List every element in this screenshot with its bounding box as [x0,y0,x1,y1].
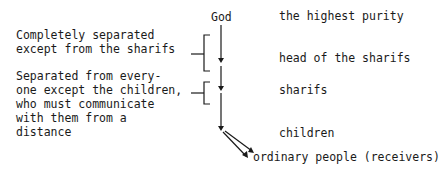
arrowhead-icon [248,147,254,153]
arrowhead-icon [218,126,224,131]
diagram-connectors [0,0,446,173]
bracket-icon-first [191,35,210,71]
bracket-icon-second [191,82,210,104]
arrowhead-icon [218,86,224,91]
arrowhead-icon [218,58,224,63]
